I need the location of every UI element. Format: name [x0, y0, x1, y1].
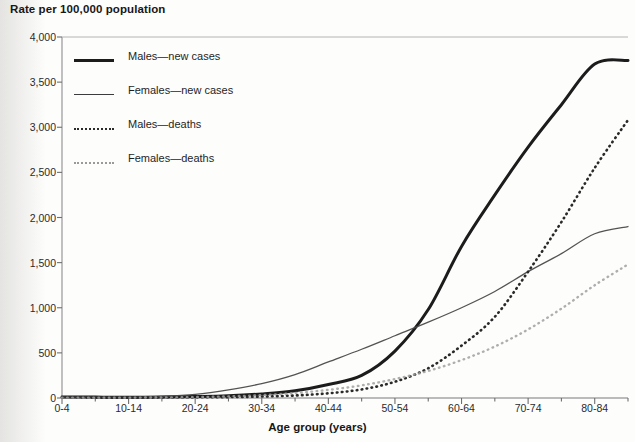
legend-item-females-new-cases: Females—new cases: [74, 82, 314, 116]
legend-label: Males—new cases: [128, 50, 220, 62]
x-axis-tick-label: 70-74: [515, 402, 542, 414]
line-dotted-light-key: [74, 162, 114, 172]
chart-figure: Rate per 100,000 population 05001,0001,5…: [0, 0, 635, 442]
x-axis-tick-label: 80-84: [581, 402, 608, 414]
x-axis-tick-label: 0-4: [54, 402, 69, 414]
x-axis-tick-label: 10-14: [115, 402, 142, 414]
x-axis-title: Age group (years): [0, 421, 635, 433]
x-axis-tick-label: 40-44: [315, 402, 342, 414]
line-dotted-dark-key: [74, 128, 114, 138]
y-axis-ticks: [57, 37, 62, 398]
legend-item-males-deaths: Males—deaths: [74, 116, 314, 150]
legend-label: Females—deaths: [128, 152, 214, 164]
legend-item-males-new-cases: Males—new cases: [74, 48, 314, 82]
line-thin-solid-key: [74, 94, 114, 103]
x-axis-tick-label: 50-54: [382, 402, 409, 414]
legend-label: Females—new cases: [128, 84, 233, 96]
line-thick-solid-key: [74, 59, 114, 70]
chart-legend: Males—new cases Females—new cases Males—…: [74, 48, 314, 184]
series-line: [62, 264, 628, 397]
x-axis-ticks: [62, 398, 628, 404]
legend-item-females-deaths: Females—deaths: [74, 150, 314, 184]
legend-label: Males—deaths: [128, 118, 201, 130]
x-axis-tick-label: 60-64: [448, 402, 475, 414]
x-axis-tick-label: 30-34: [248, 402, 275, 414]
x-axis-tick-label: 20-24: [182, 402, 209, 414]
